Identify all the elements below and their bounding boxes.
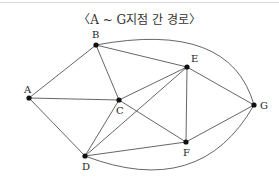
edge-d-f (85, 142, 186, 156)
node-label-f: F (183, 147, 190, 158)
edge-c-d (85, 100, 119, 156)
node-label-g: G (260, 100, 268, 111)
node-label-d: D (82, 161, 90, 172)
node-label-e: E (191, 53, 198, 64)
node-b (93, 42, 98, 47)
route-graph: ABCDEFG (0, 0, 279, 181)
edge-e-g (187, 67, 254, 105)
edge-c-f (119, 100, 186, 142)
edge-a-d (29, 98, 85, 156)
edge-f-g (186, 105, 254, 142)
edge-b-g (96, 39, 254, 105)
edge-a-c (29, 98, 119, 100)
node-f (183, 139, 188, 144)
node-label-a: A (23, 84, 32, 95)
node-e (184, 64, 189, 69)
node-g (251, 102, 256, 107)
edge-a-b (29, 45, 96, 98)
node-label-b: B (92, 29, 99, 40)
edge-d-e (85, 67, 187, 156)
node-d (82, 153, 87, 158)
node-a (26, 95, 31, 100)
edge-b-e (96, 45, 187, 67)
node-label-c: C (116, 105, 124, 116)
edge-e-f (186, 67, 187, 142)
edge-b-c (96, 45, 119, 100)
edge-c-e (119, 67, 187, 100)
node-c (116, 97, 121, 102)
